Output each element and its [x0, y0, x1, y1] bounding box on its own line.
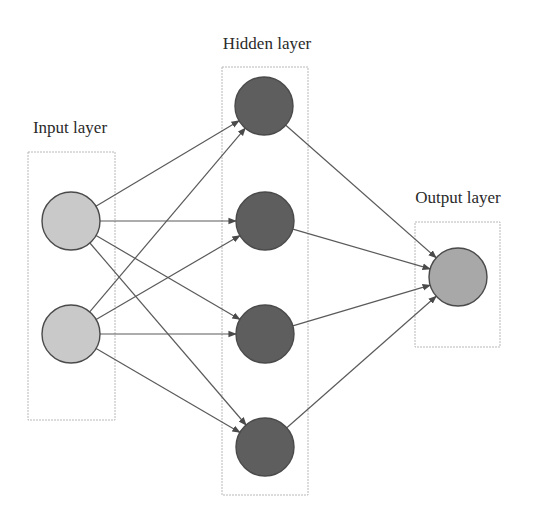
- hidden-node-h2: [236, 192, 294, 250]
- edge-i2-h4: [96, 349, 240, 433]
- connections: [90, 121, 437, 433]
- output-node-o1: [429, 248, 487, 306]
- neurons: [42, 77, 487, 476]
- output-layer-label: Output layer: [415, 188, 501, 207]
- input-node-i1: [42, 192, 100, 250]
- edge-h4-o1: [287, 296, 436, 428]
- input-node-i2: [42, 305, 100, 363]
- hidden-node-h4: [236, 418, 294, 476]
- hidden-node-h3: [236, 305, 294, 363]
- input-layer-label: Input layer: [33, 118, 107, 137]
- hidden-layer-label: Hidden layer: [223, 34, 312, 53]
- hidden-node-h1: [235, 77, 293, 135]
- edge-i1-h1: [96, 121, 239, 206]
- neural-network-diagram: Input layer Hidden layer Output layer: [0, 0, 536, 509]
